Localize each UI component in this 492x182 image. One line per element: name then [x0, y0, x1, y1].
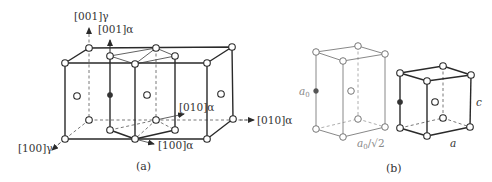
alpha-atoms	[107, 45, 179, 143]
label-001-gamma: [001]γ	[74, 10, 109, 22]
label-010-alpha-inner: [010]α	[179, 101, 214, 113]
arrow-010-alpha-inner	[156, 114, 184, 120]
label-100-alpha: [100]α	[158, 139, 193, 151]
label-c: c	[476, 96, 482, 108]
caption-b: (b)	[386, 162, 402, 175]
body-center-atom-tall	[348, 88, 355, 95]
gamma-atoms	[62, 44, 237, 143]
edge-marker-a0	[314, 89, 319, 94]
body-center-atom-cube	[432, 99, 439, 106]
label-001-alpha: [001]α	[98, 23, 133, 35]
caption-a: (a)	[136, 160, 151, 173]
panel-a: [001]γ [001]α [100]γ [100]α [010]α [010]…	[18, 10, 292, 173]
bain-correspondence-figure: [001]γ [001]α [100]γ [100]α [010]α [010]…	[0, 0, 492, 182]
label-010-alpha-outer: [010]α	[257, 114, 292, 126]
label-100-gamma: [100]γ	[18, 142, 53, 154]
tall-bct-cell: a0 a0/√2	[299, 43, 388, 151]
label-a0-root2: a0/√2	[357, 137, 385, 151]
alpha-cell	[110, 48, 175, 139]
edge-marker-cube	[397, 99, 402, 104]
body-center-atom	[107, 92, 112, 97]
small-bct-cell: c a	[397, 63, 482, 149]
panel-b: a0 a0/√2 c a (b)	[299, 43, 482, 175]
label-a0: a0	[299, 85, 310, 99]
label-a: a	[450, 137, 456, 149]
